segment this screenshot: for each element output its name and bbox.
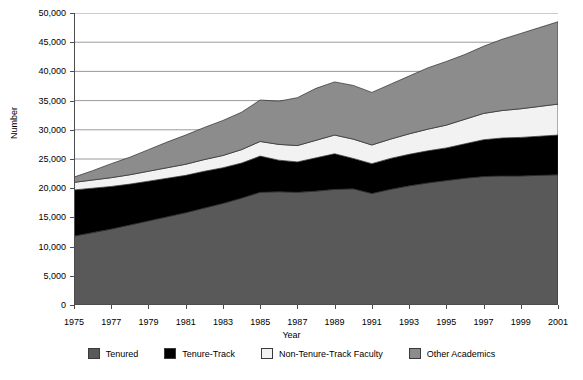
legend-label: Other Academics [427, 349, 496, 359]
y-tick-mark [70, 247, 74, 248]
x-tick-label: 1977 [101, 318, 121, 327]
x-tick-mark [409, 305, 410, 309]
x-tick-mark [223, 305, 224, 309]
legend-item[interactable]: Tenure-Track [164, 348, 235, 359]
y-tick-label: 35,000 [4, 96, 66, 105]
y-tick-mark [70, 159, 74, 160]
x-tick-label: 1981 [176, 318, 196, 327]
y-tick-mark [70, 276, 74, 277]
y-tick-mark [70, 188, 74, 189]
x-tick-label: 1987 [287, 318, 307, 327]
y-tick-mark [70, 217, 74, 218]
y-tick-mark [70, 42, 74, 43]
y-tick-label: 20,000 [4, 184, 66, 193]
legend-swatch [261, 348, 273, 359]
legend-label: Tenure-Track [182, 349, 235, 359]
chart-legend: TenuredTenure-TrackNon-Tenure-Track Facu… [0, 348, 583, 359]
y-tick-label: 15,000 [4, 213, 66, 222]
legend-swatch [164, 348, 176, 359]
x-tick-label: 2001 [548, 318, 568, 327]
x-tick-label: 1975 [64, 318, 84, 327]
legend-swatch [88, 348, 100, 359]
y-tick-mark [70, 101, 74, 102]
x-tick-mark [521, 305, 522, 309]
x-tick-mark [297, 305, 298, 309]
y-tick-mark [70, 13, 74, 14]
x-tick-label: 1985 [250, 318, 270, 327]
y-tick-mark [70, 130, 74, 131]
y-tick-label: 5,000 [4, 271, 66, 280]
x-tick-mark [484, 305, 485, 309]
x-tick-label: 1991 [362, 318, 382, 327]
x-tick-label: 1995 [436, 318, 456, 327]
x-tick-label: 1997 [474, 318, 494, 327]
y-tick-label: 25,000 [4, 155, 66, 164]
y-tick-label: 40,000 [4, 67, 66, 76]
y-tick-label: 45,000 [4, 38, 66, 47]
x-tick-mark [372, 305, 373, 309]
x-tick-label: 1993 [399, 318, 419, 327]
stacked-area-chart: Number Year 05,00010,00015,00020,00025,0… [0, 0, 583, 380]
legend-item[interactable]: Tenured [88, 348, 139, 359]
x-tick-mark [446, 305, 447, 309]
x-tick-mark [148, 305, 149, 309]
x-axis-tick-labels: 1975197719791981198319851987198919911993… [0, 312, 583, 326]
x-tick-mark [111, 305, 112, 309]
x-tick-mark [186, 305, 187, 309]
x-axis-title: Year [0, 330, 583, 340]
legend-item[interactable]: Other Academics [409, 348, 496, 359]
x-tick-label: 1999 [511, 318, 531, 327]
y-tick-label: 10,000 [4, 242, 66, 251]
x-tick-mark [260, 305, 261, 309]
legend-label: Non-Tenure-Track Faculty [279, 349, 383, 359]
legend-swatch [409, 348, 421, 359]
y-tick-mark [70, 71, 74, 72]
x-tick-label: 1983 [213, 318, 233, 327]
y-tick-label: 50,000 [4, 9, 66, 18]
y-tick-label: 30,000 [4, 125, 66, 134]
x-tick-mark [74, 305, 75, 309]
y-tick-label: 0 [4, 301, 66, 310]
legend-item[interactable]: Non-Tenure-Track Faculty [261, 348, 383, 359]
x-tick-label: 1979 [138, 318, 158, 327]
x-tick-label: 1989 [325, 318, 345, 327]
plot-area [74, 13, 558, 305]
x-tick-mark [558, 305, 559, 309]
x-tick-mark [335, 305, 336, 309]
legend-label: Tenured [106, 349, 139, 359]
